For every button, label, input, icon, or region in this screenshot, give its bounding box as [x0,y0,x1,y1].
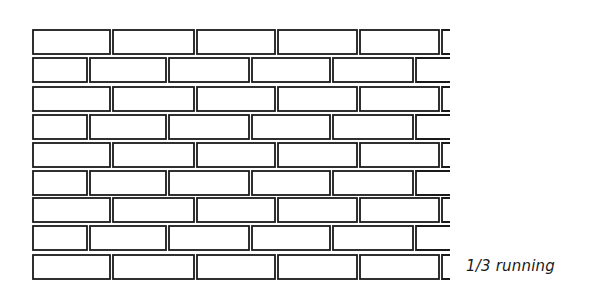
brick [442,30,450,54]
brick-wall-diagram [0,0,595,297]
brick [90,58,166,82]
brick [442,143,450,167]
brick [360,198,439,222]
brick [197,143,275,167]
brick [278,30,357,54]
brick [360,87,439,111]
brick [169,58,249,82]
brick [360,30,439,54]
brick [169,115,249,139]
brick [113,255,194,279]
brick [33,171,87,195]
brick [33,58,87,82]
brick [33,198,110,222]
brick [33,255,110,279]
brick [416,171,450,195]
brick [278,198,357,222]
brick [90,115,166,139]
brick [252,58,330,82]
brick [416,115,450,139]
brick [90,226,166,250]
brick [197,255,275,279]
brick [333,226,413,250]
brick [333,115,413,139]
brick [197,198,275,222]
brick [333,171,413,195]
brick [90,171,166,195]
brick [169,171,249,195]
brick [416,58,450,82]
brick [442,198,450,222]
brick [278,255,357,279]
brick [197,30,275,54]
brick [169,226,249,250]
brick [442,87,450,111]
brick [113,87,194,111]
brick [113,30,194,54]
brick [113,143,194,167]
brick [252,171,330,195]
brick [252,115,330,139]
brick [252,226,330,250]
brick [333,58,413,82]
brick [33,87,110,111]
brick [442,255,450,279]
brick [33,30,110,54]
brick [33,143,110,167]
brick [278,143,357,167]
brick [197,87,275,111]
brick [416,226,450,250]
pattern-caption: 1/3 running [466,257,555,275]
brick [33,226,87,250]
brick [33,115,87,139]
brick [360,255,439,279]
brick [360,143,439,167]
brick [113,198,194,222]
brick [278,87,357,111]
